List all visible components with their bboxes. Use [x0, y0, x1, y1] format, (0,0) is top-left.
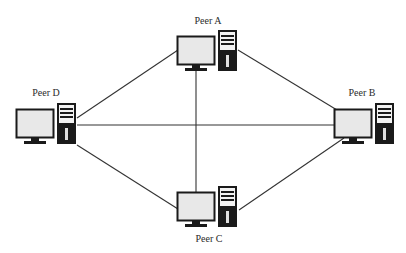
- peer-c-computer-icon: [178, 186, 238, 227]
- network-diagram: [0, 0, 406, 253]
- peer-d-label: Peer D: [32, 87, 60, 98]
- peer-c-label: Peer C: [196, 233, 223, 244]
- peer-a-label: Peer A: [195, 15, 222, 26]
- peer-d-computer-icon: [17, 103, 77, 144]
- peer-b-label: Peer B: [349, 87, 376, 98]
- edge-d-a: [77, 50, 178, 118]
- connection-lines: [77, 50, 344, 210]
- edge-c-b: [239, 138, 344, 210]
- peer-a-computer-icon: [178, 30, 238, 71]
- peer-b-computer-icon: [335, 103, 395, 144]
- edge-d-c: [77, 145, 178, 209]
- edge-a-b: [238, 50, 337, 110]
